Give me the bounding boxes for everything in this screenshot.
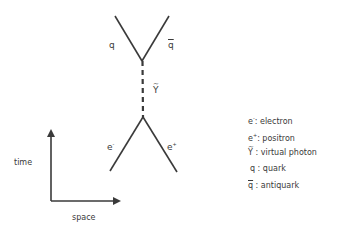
legend-item-virtual-photon: Y : virtual photon <box>248 148 317 158</box>
antiquark-label: q <box>168 40 174 50</box>
space-axis-label: space <box>72 213 95 223</box>
quark-line <box>115 16 142 61</box>
legend-item-antiquark: q : antiquark <box>248 181 299 191</box>
legend-item-positron: e+: positron <box>248 130 295 144</box>
virtual-photon-line <box>143 61 144 117</box>
electron-line <box>110 117 143 171</box>
legend-item-quark: q : quark <box>248 164 286 174</box>
time-axis-label: time <box>14 158 32 168</box>
virtual-photon-label: Y <box>153 85 159 95</box>
quark-label: q <box>109 40 115 50</box>
antiquark-line <box>142 16 169 61</box>
legend-item-electron: e-: electron <box>248 113 293 127</box>
feynman-diagram-canvas <box>0 0 346 232</box>
electron-label: e- <box>107 139 114 152</box>
positron-label: e+ <box>167 139 177 152</box>
